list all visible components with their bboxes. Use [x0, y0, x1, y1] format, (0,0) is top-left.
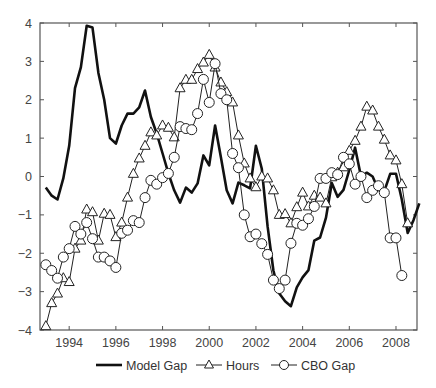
legend-item-model-gap: Model Gap: [96, 359, 187, 373]
x-tick-label: 1996: [102, 336, 130, 350]
triangle-marker-icon: [205, 360, 214, 368]
y-tick-label: 2: [25, 93, 32, 107]
x-tick-label: 2000: [195, 336, 223, 350]
legend-label-hours: Hours: [226, 359, 259, 373]
y-tick-label: 3: [25, 55, 32, 69]
series-model-gap: [46, 26, 420, 307]
x-tick-label: 2002: [242, 336, 270, 350]
series-layer: [41, 26, 419, 330]
x-tick-label: 1994: [55, 336, 83, 350]
legend-item-hours: Hours: [196, 359, 259, 373]
y-tick-label: −2: [18, 247, 32, 261]
y-tick-label: 4: [25, 17, 32, 31]
y-tick-label: −3: [18, 285, 32, 299]
x-tick-label: 2006: [335, 336, 363, 350]
x-tick-label: 1998: [149, 336, 177, 350]
legend-label-model-gap: Model Gap: [126, 359, 187, 373]
line-chart: 19941996199820002002200420062008 −4−3−2−…: [0, 0, 436, 388]
legend: Model Gap Hours CBO Gap: [96, 359, 355, 373]
circle-marker-icon: [280, 361, 289, 370]
x-tick-label: 2008: [382, 336, 410, 350]
y-tick-label: −1: [18, 208, 32, 222]
y-tick-label: 1: [25, 132, 32, 146]
x-tick-label: 2004: [289, 336, 317, 350]
legend-label-cbo-gap: CBO Gap: [301, 359, 355, 373]
legend-item-cbo-gap: CBO Gap: [271, 359, 355, 373]
y-tick-label: −4: [18, 324, 32, 338]
y-tick-label: 0: [25, 170, 32, 184]
